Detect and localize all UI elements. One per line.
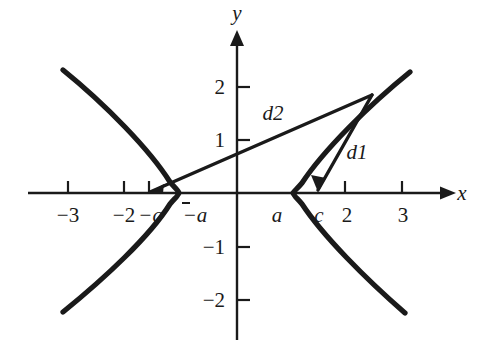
d2-label: d2 — [263, 101, 285, 125]
x-tick-label--3: −3 — [57, 203, 79, 227]
d2-arrowhead — [150, 184, 164, 193]
y-tick-label--2: −2 — [203, 288, 225, 312]
y-tick-label-2: 2 — [215, 75, 226, 99]
x-tick-label--a: −a — [183, 203, 208, 227]
d1-arrowhead — [311, 175, 326, 192]
x-axis-arrowhead — [440, 187, 456, 200]
x-axis-label: x — [456, 181, 467, 205]
y-tick-label--1: −1 — [203, 235, 225, 259]
figure-canvas: x y −3 −2 −c −a a c 2 3 2 1 −1 −2 d2 d1 — [0, 0, 493, 351]
x-tick-label-c: c — [314, 203, 324, 227]
axis-group — [28, 30, 456, 340]
x-tick-label--2: −2 — [113, 203, 135, 227]
x-tick-label-2: 2 — [342, 203, 353, 227]
y-axis-label: y — [230, 1, 242, 25]
x-tick-marks — [68, 181, 402, 193]
y-tick-label-1: 1 — [215, 128, 226, 152]
distance-segments — [150, 95, 372, 193]
x-tick-label-3: 3 — [398, 203, 409, 227]
x-tick-label--c: −c — [138, 203, 162, 227]
d1-label: d1 — [347, 140, 368, 164]
x-tick-label-a: a — [272, 203, 283, 227]
d2-segment — [150, 95, 372, 192]
y-axis-arrowhead — [230, 30, 244, 46]
hyperbola-figure: x y −3 −2 −c −a a c 2 3 2 1 −1 −2 d2 d1 — [0, 0, 493, 351]
